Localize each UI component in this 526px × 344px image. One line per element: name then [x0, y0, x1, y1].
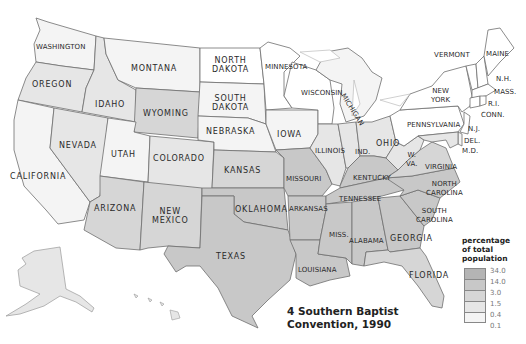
- legend-title: percentage of total population: [462, 236, 510, 263]
- label-new-mexico: NEW MEXICO: [152, 207, 188, 225]
- label-colorado: COLORADO: [153, 154, 205, 163]
- label-iowa: IOWA: [277, 130, 302, 139]
- label-arizona: ARIZONA: [94, 204, 136, 213]
- state-connecticut[interactable]: [470, 96, 480, 108]
- label-new-york: NEW YORK: [431, 87, 450, 105]
- label-maryland: M.D.: [462, 147, 478, 156]
- label-oklahoma: OKLAHOMA: [235, 205, 288, 214]
- label-south-carolina-line1: SOUTH: [416, 207, 453, 216]
- label-illinois: ILLINOIS: [315, 147, 345, 156]
- label-new-hampshire: N.H.: [496, 75, 511, 84]
- legend-swatch-2: [464, 279, 486, 290]
- label-west-virginia-line1: W.: [406, 151, 418, 160]
- label-massachusetts: MASS.: [494, 88, 516, 97]
- legend-swatch-1: [464, 268, 486, 279]
- label-south-carolina: SOUTH CAROLINA: [416, 207, 453, 225]
- legend-value: 0.4: [490, 310, 506, 321]
- state-delaware[interactable]: [458, 132, 462, 146]
- legend-swatch-3: [464, 290, 486, 301]
- label-wyoming: WYOMING: [143, 109, 189, 118]
- label-california: CALIFORNIA: [10, 172, 66, 181]
- label-north-carolina-line1: NORTH: [426, 180, 463, 189]
- label-north-carolina: NORTH CAROLINA: [426, 180, 463, 198]
- legend-swatch-4: [464, 301, 486, 312]
- legend-value: 3.0: [490, 288, 506, 299]
- label-maine: MAINE: [486, 50, 509, 59]
- label-north-dakota-line2: DAKOTA: [212, 65, 249, 74]
- label-texas: TEXAS: [216, 252, 246, 261]
- state-hawaii[interactable]: [134, 294, 180, 320]
- label-south-dakota: SOUTH DAKOTA: [212, 94, 249, 112]
- legend-title-line2: of total: [462, 245, 510, 254]
- label-north-dakota: NORTH DAKOTA: [212, 56, 249, 74]
- legend-swatch-5: [464, 312, 486, 323]
- map-title-line2: Convention, 1990: [287, 318, 399, 331]
- map-title: 4 Southern Baptist Convention, 1990: [287, 305, 399, 331]
- label-vermont: VERMONT: [434, 51, 470, 60]
- label-pennsylvania: PENNSYLVANIA: [407, 121, 460, 130]
- label-minnesota: MINNESOTA: [265, 63, 307, 72]
- state-arkansas[interactable]: [288, 196, 326, 240]
- label-utah: UTAH: [111, 150, 136, 159]
- state-rhode-island[interactable]: [480, 96, 486, 106]
- label-new-york-line1: NEW: [431, 87, 450, 96]
- label-florida: FLORIDA: [409, 271, 449, 280]
- label-tennessee: TENNESSEE: [339, 195, 381, 204]
- label-missouri: MISSOURI: [286, 175, 321, 184]
- label-ohio: OHIO: [376, 139, 400, 148]
- label-nebraska: NEBRASKA: [206, 127, 255, 136]
- legend-value: 14.0: [490, 277, 506, 288]
- label-arkansas: ARKANSAS: [289, 205, 328, 214]
- label-montana: MONTANA: [131, 64, 177, 73]
- legend-value: 1.5: [490, 299, 506, 310]
- legend-title-line3: population: [462, 254, 510, 263]
- label-virginia: VIRGINIA: [425, 163, 457, 172]
- label-new-mexico-line1: NEW: [152, 207, 188, 216]
- label-idaho: IDAHO: [95, 100, 125, 109]
- legend-swatches: [464, 268, 486, 323]
- legend-values: 34.0 14.0 3.0 1.5 0.4 0.1: [490, 266, 506, 332]
- legend-value: 34.0: [490, 266, 506, 277]
- label-alabama: ALABAMA: [349, 237, 384, 246]
- label-washington: WASHINGTON: [36, 43, 86, 52]
- legend-title-line1: percentage: [462, 236, 510, 245]
- label-rhode-island: R.I.: [488, 100, 500, 109]
- label-oregon: OREGON: [32, 80, 72, 89]
- label-kansas: KANSAS: [224, 166, 261, 175]
- label-west-virginia: W. VA.: [406, 151, 418, 169]
- label-new-jersey: N.J.: [468, 125, 480, 134]
- map-title-line1: 4 Southern Baptist: [287, 305, 399, 318]
- label-north-carolina-line2: CAROLINA: [426, 189, 463, 198]
- label-south-dakota-line1: SOUTH: [212, 94, 249, 103]
- label-south-dakota-line2: DAKOTA: [212, 103, 249, 112]
- label-mississippi: MISS.: [329, 231, 349, 240]
- label-louisiana: LOUISIANA: [298, 266, 337, 275]
- label-south-carolina-line2: CAROLINA: [416, 216, 453, 225]
- label-wisconsin: WISCONSIN: [301, 89, 343, 98]
- label-connecticut: CONN.: [481, 111, 505, 120]
- legend-value: 0.1: [490, 321, 506, 332]
- legend: percentage of total population 34.0 14.0…: [462, 236, 510, 332]
- legend-body: 34.0 14.0 3.0 1.5 0.4 0.1: [462, 266, 510, 332]
- label-new-york-line2: YORK: [431, 96, 450, 105]
- label-delaware: DEL.: [464, 137, 480, 146]
- label-north-dakota-line1: NORTH: [212, 56, 249, 65]
- label-nevada: NEVADA: [59, 141, 97, 150]
- label-indiana: IND.: [355, 148, 370, 157]
- state-colorado[interactable]: [148, 136, 214, 190]
- label-kentucky: KENTUCKY: [353, 174, 391, 183]
- state-alaska[interactable]: [6, 247, 94, 316]
- label-west-virginia-line2: VA.: [406, 160, 418, 169]
- label-new-mexico-line2: MEXICO: [152, 216, 188, 225]
- label-georgia: GEORGIA: [390, 234, 433, 243]
